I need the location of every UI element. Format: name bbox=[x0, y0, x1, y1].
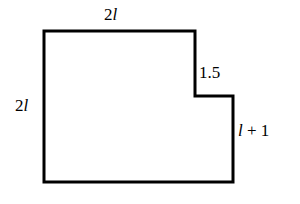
dimension-left-variable: l bbox=[24, 96, 29, 115]
figure-canvas: 2l 2l 1.5 l + 1 bbox=[0, 0, 300, 204]
dimension-left-coefficient: 2 bbox=[15, 96, 24, 115]
composite-shape bbox=[44, 31, 233, 182]
dimension-right-constant: 1 bbox=[261, 121, 270, 140]
dimension-label-right: l + 1 bbox=[238, 122, 269, 139]
dimension-top-variable: l bbox=[113, 5, 118, 24]
dimension-label-left: 2l bbox=[15, 97, 28, 114]
polygon-outline bbox=[0, 0, 300, 204]
dimension-top-coefficient: 2 bbox=[104, 5, 113, 24]
dimension-label-top: 2l bbox=[104, 6, 117, 23]
dimension-notch-value: 1.5 bbox=[199, 63, 220, 82]
dimension-right-operator: + bbox=[243, 121, 261, 140]
dimension-label-notch: 1.5 bbox=[199, 64, 220, 81]
